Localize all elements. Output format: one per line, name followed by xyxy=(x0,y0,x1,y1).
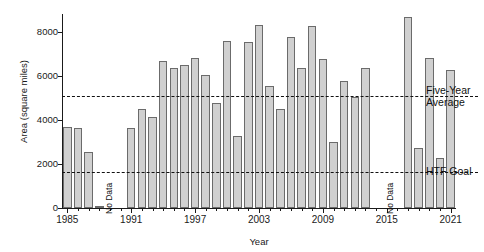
bar-1985 xyxy=(63,127,72,208)
x-tick-2009 xyxy=(323,208,324,213)
x-tick-1999 xyxy=(216,208,217,211)
bars-layer xyxy=(62,14,456,208)
bar-1992 xyxy=(138,109,147,208)
x-tick-label-2021: 2021 xyxy=(440,214,462,225)
x-tick-2005 xyxy=(280,208,281,211)
bar-2006 xyxy=(287,37,296,208)
five-year-average-line xyxy=(62,96,478,97)
x-axis-title: Year xyxy=(62,236,456,247)
x-tick-2018 xyxy=(419,208,420,211)
bar-2011 xyxy=(340,81,349,208)
x-tick-label-1997: 1997 xyxy=(184,214,206,225)
x-tick-2020 xyxy=(440,208,441,211)
x-tick-1990 xyxy=(121,208,122,211)
no-data-1989: No Data xyxy=(104,183,114,214)
x-tick-1997 xyxy=(195,208,196,213)
y-tick-label-0: 0 xyxy=(4,203,58,213)
bar-2012 xyxy=(351,97,360,208)
bar-2002 xyxy=(244,42,253,208)
bar-1991 xyxy=(127,128,136,208)
bar-2004 xyxy=(265,86,274,208)
x-tick-2010 xyxy=(334,208,335,211)
bar-2007 xyxy=(297,68,306,208)
y-tick-label-2000: 2000 xyxy=(4,159,58,169)
x-tick-2007 xyxy=(302,208,303,211)
five-year-average-label: Five-Year Average xyxy=(426,84,471,108)
x-tick-1988 xyxy=(99,208,100,211)
x-tick-1991 xyxy=(131,208,132,213)
bar-1997 xyxy=(191,58,200,208)
x-tick-2021 xyxy=(451,208,452,213)
x-tick-label-2003: 2003 xyxy=(248,214,270,225)
x-tick-2014 xyxy=(376,208,377,211)
x-tick-1985 xyxy=(67,208,68,213)
bar-2018 xyxy=(414,148,423,208)
bar-2003 xyxy=(255,25,264,208)
x-tick-2013 xyxy=(365,208,366,211)
bar-1993 xyxy=(148,117,157,208)
x-tick-1996 xyxy=(184,208,185,211)
x-tick-2016 xyxy=(397,208,398,211)
bar-2008 xyxy=(308,26,317,208)
x-tick-label-2015: 2015 xyxy=(376,214,398,225)
bar-1996 xyxy=(180,65,189,208)
htf-goal-label: HTF Goal xyxy=(426,165,472,177)
x-tick-2012 xyxy=(355,208,356,211)
five-year-average-label-line1: Five-Year xyxy=(426,84,471,96)
x-tick-1992 xyxy=(142,208,143,211)
bar-1986 xyxy=(74,128,83,208)
bar-2013 xyxy=(361,68,370,208)
bar-1995 xyxy=(170,68,179,208)
x-tick-2019 xyxy=(429,208,430,211)
y-tick-label-4000: 4000 xyxy=(4,115,58,125)
bar-2000 xyxy=(223,41,232,208)
x-tick-2008 xyxy=(312,208,313,211)
x-tick-2001 xyxy=(238,208,239,211)
bar-2010 xyxy=(329,142,338,208)
bar-chart: Area (square miles) 0 2000 4000 6000 800… xyxy=(0,0,484,252)
x-tick-label-2009: 2009 xyxy=(312,214,334,225)
bar-1999 xyxy=(212,103,221,208)
x-tick-2000 xyxy=(227,208,228,211)
x-tick-1987 xyxy=(89,208,90,211)
x-tick-2006 xyxy=(291,208,292,211)
x-tick-1995 xyxy=(174,208,175,211)
bar-2009 xyxy=(319,59,328,208)
five-year-average-label-line2: Average xyxy=(426,96,465,108)
x-tick-label-1991: 1991 xyxy=(120,214,142,225)
bar-2019 xyxy=(425,58,434,208)
y-tick-label-6000: 6000 xyxy=(4,71,58,81)
x-tick-1986 xyxy=(78,208,79,211)
bar-1994 xyxy=(159,61,168,208)
x-tick-1998 xyxy=(206,208,207,211)
x-tick-2002 xyxy=(248,208,249,211)
bar-2017 xyxy=(404,17,413,208)
bar-1987 xyxy=(84,152,93,208)
htf-goal-line xyxy=(62,172,478,173)
x-tick-1994 xyxy=(163,208,164,211)
x-tick-2011 xyxy=(344,208,345,211)
bar-2005 xyxy=(276,109,285,208)
x-tick-2003 xyxy=(259,208,260,213)
y-tick-label-8000: 8000 xyxy=(4,27,58,37)
x-tick-2017 xyxy=(408,208,409,211)
no-data-2015: No Data xyxy=(385,183,395,214)
x-tick-1993 xyxy=(153,208,154,211)
x-tick-label-1985: 1985 xyxy=(56,214,78,225)
x-tick-2004 xyxy=(270,208,271,211)
y-axis-labels: 0 2000 4000 6000 8000 xyxy=(0,0,58,252)
